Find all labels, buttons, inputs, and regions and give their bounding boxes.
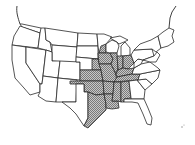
maine-coast-line	[169, 6, 176, 28]
speck-mark	[181, 126, 183, 128]
state-north-dakota	[77, 33, 98, 46]
state-indiana	[117, 56, 123, 70]
state-new-england	[158, 28, 174, 48]
us-map-svg	[0, 0, 195, 145]
state-wyoming	[52, 45, 77, 63]
state-florida	[124, 99, 152, 125]
state-colorado	[58, 61, 80, 80]
state-arkansas	[103, 81, 114, 94]
pacific-coast-line	[17, 6, 20, 24]
state-kansas	[80, 70, 103, 81]
state-new-york	[134, 36, 161, 52]
state-mississippi	[112, 82, 121, 102]
us-map	[0, 0, 195, 145]
speck-mark	[183, 124, 184, 125]
